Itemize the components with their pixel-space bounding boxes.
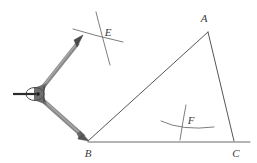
geometry-figure: A B C E F bbox=[0, 0, 257, 163]
compass-upper-leg-highlight bbox=[39, 43, 77, 91]
arc-f-vertical bbox=[180, 105, 186, 140]
compass-lower-joint-icon bbox=[77, 132, 81, 136]
label-point-e: E bbox=[104, 26, 112, 38]
triangle-abc bbox=[88, 32, 250, 142]
label-point-b: B bbox=[85, 147, 92, 159]
label-point-f: F bbox=[187, 114, 195, 126]
segment-ac bbox=[208, 32, 234, 141]
label-point-a: A bbox=[200, 12, 208, 24]
compass-tool bbox=[13, 35, 89, 141]
compass-center-dot-icon bbox=[36, 92, 40, 96]
construction-drawing: A B C E F bbox=[0, 0, 257, 163]
label-point-c: C bbox=[232, 147, 240, 159]
